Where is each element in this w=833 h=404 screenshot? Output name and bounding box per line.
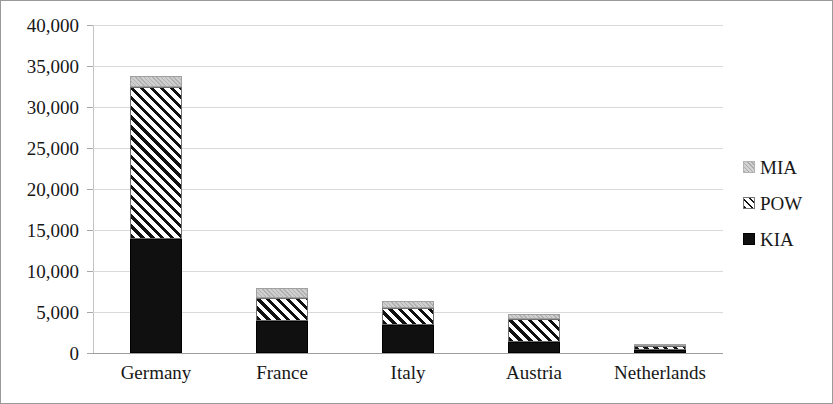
bar-segment-mia: [634, 344, 686, 346]
y-tick-label: 40,000: [27, 16, 79, 35]
bar-segment-pow: [130, 87, 182, 239]
bar-stack: [508, 25, 560, 353]
x-axis: GermanyFranceItalyAustriaNetherlands: [93, 357, 723, 397]
bar-group: [382, 25, 434, 353]
y-tick-label: 25,000: [27, 139, 79, 158]
bar-stack: [382, 25, 434, 353]
bar-segment-mia: [508, 314, 560, 319]
bars-layer: [93, 25, 723, 353]
y-axis: 05,00010,00015,00020,00025,00030,00035,0…: [1, 1, 87, 404]
y-tick-label: 10,000: [27, 262, 79, 281]
x-tick-label: Austria: [506, 363, 562, 382]
bar-segment-pow: [256, 298, 308, 321]
bar-group: [256, 25, 308, 353]
bar-segment-pow: [508, 319, 560, 342]
y-tick-label: 30,000: [27, 98, 79, 117]
y-tick-label: 0: [70, 344, 80, 363]
axis-baseline: [93, 353, 723, 354]
legend-label: KIA: [760, 230, 794, 249]
bar-stack: [130, 25, 182, 353]
bar-segment-kia: [634, 350, 686, 353]
legend-swatch-icon: [743, 233, 755, 245]
bar-segment-pow: [382, 308, 434, 325]
plot-area: [93, 25, 723, 353]
x-tick-label: Italy: [391, 363, 426, 382]
legend-item-mia[interactable]: MIA: [743, 149, 829, 185]
bar-segment-pow: [634, 346, 686, 350]
legend-item-pow[interactable]: POW: [743, 185, 829, 221]
legend-label: MIA: [760, 158, 797, 177]
x-tick-label: Netherlands: [614, 363, 706, 382]
bar-group: [508, 25, 560, 353]
y-tick-label: 20,000: [27, 180, 79, 199]
bar-segment-mia: [256, 288, 308, 298]
y-tick-label: 5,000: [36, 303, 79, 322]
bar-segment-kia: [130, 239, 182, 353]
bar-segment-mia: [382, 301, 434, 308]
bar-group: [130, 25, 182, 353]
bar-stack: [256, 25, 308, 353]
bar-stack: [634, 25, 686, 353]
bar-segment-kia: [508, 342, 560, 353]
legend-label: POW: [760, 194, 802, 213]
y-tick-label: 35,000: [27, 57, 79, 76]
legend-swatch-icon: [743, 161, 755, 173]
y-tick-label: 15,000: [27, 221, 79, 240]
stacked-bar-chart: 05,00010,00015,00020,00025,00030,00035,0…: [0, 0, 833, 404]
y-tick-mark: [87, 353, 93, 354]
x-tick-label: France: [256, 363, 308, 382]
x-tick-label: Germany: [121, 363, 192, 382]
legend-item-kia[interactable]: KIA: [743, 221, 829, 257]
bar-group: [634, 25, 686, 353]
bar-segment-mia: [130, 76, 182, 87]
bar-segment-kia: [382, 325, 434, 353]
bar-segment-kia: [256, 321, 308, 353]
chart-legend: MIAPOWKIA: [743, 149, 829, 257]
legend-swatch-icon: [743, 197, 755, 209]
